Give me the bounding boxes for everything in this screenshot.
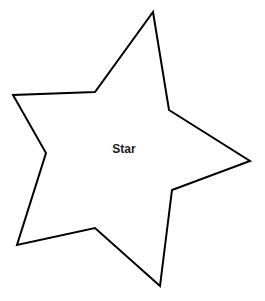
- star-label: Star: [112, 142, 136, 156]
- drawing-canvas: Star: [0, 0, 265, 301]
- star-shape-svg: Star: [0, 0, 265, 301]
